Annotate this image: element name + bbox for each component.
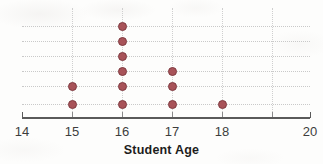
gridline-horizontal: [22, 41, 310, 42]
data-point[interactable]: [68, 100, 77, 109]
x-axis-tick-label-17: 17: [165, 124, 179, 139]
x-axis-tick-label-18: 18: [215, 124, 229, 139]
x-axis-tick-label-15: 15: [65, 124, 79, 139]
x-axis-line: [22, 117, 310, 119]
data-point[interactable]: [118, 82, 127, 91]
data-point[interactable]: [118, 100, 127, 109]
data-point[interactable]: [168, 82, 177, 91]
gridline-horizontal: [22, 26, 310, 27]
x-axis-tick-label-14: 14: [15, 124, 29, 139]
x-axis-tick-15: [72, 112, 73, 117]
plot-area: [0, 0, 323, 118]
x-axis-tick-17: [172, 112, 173, 117]
data-point[interactable]: [118, 37, 127, 46]
data-point[interactable]: [168, 67, 177, 76]
gridline-horizontal: [22, 86, 310, 87]
x-axis-tick-19: [272, 112, 273, 117]
x-axis-tick-label-20: 20: [303, 124, 317, 139]
dot-plot-chart: 14 15 16 17 18 20 Student Age: [0, 0, 323, 164]
gridline-horizontal: [22, 71, 310, 72]
data-point[interactable]: [168, 100, 177, 109]
data-point[interactable]: [68, 82, 77, 91]
data-point[interactable]: [118, 22, 127, 31]
x-axis-start-cap: [22, 112, 23, 118]
x-axis-tick-label-16: 16: [115, 124, 129, 139]
data-point[interactable]: [118, 52, 127, 61]
gridline-vertical: [272, 8, 273, 118]
x-axis-tick-18: [222, 112, 223, 117]
x-axis-end-cap: [310, 112, 311, 118]
x-axis-tick-16: [122, 112, 123, 117]
gridline-horizontal: [22, 56, 310, 57]
data-point[interactable]: [118, 67, 127, 76]
gridline-horizontal: [22, 104, 310, 105]
data-point[interactable]: [218, 100, 227, 109]
x-axis-title: Student Age: [0, 143, 323, 157]
